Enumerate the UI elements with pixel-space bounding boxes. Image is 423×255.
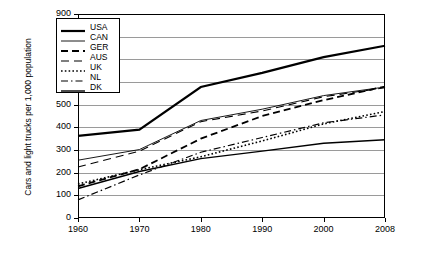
series-line-ger — [78, 87, 385, 187]
y-tick-label: 400 — [37, 122, 71, 131]
legend-item-uk[interactable]: UK — [60, 62, 116, 72]
x-tick-mark — [78, 218, 79, 222]
series-line-nl — [78, 115, 385, 200]
series-line-can — [78, 87, 385, 160]
legend-item-aus[interactable]: AUS — [60, 52, 116, 62]
legend-swatch-icon — [60, 22, 86, 32]
legend: USACANGERAUSUKNLDK — [56, 18, 120, 93]
legend-label: UK — [90, 62, 102, 72]
legend-item-nl[interactable]: NL — [60, 72, 116, 82]
legend-swatch-icon — [60, 42, 86, 52]
legend-label: USA — [90, 22, 107, 32]
x-tick-label: 2008 — [365, 224, 405, 234]
legend-swatch-icon — [60, 52, 86, 62]
legend-item-usa[interactable]: USA — [60, 22, 116, 32]
series-line-usa — [78, 46, 385, 136]
legend-label: NL — [90, 72, 101, 82]
x-tick-mark — [324, 218, 325, 222]
x-tick-mark — [262, 218, 263, 222]
x-tick-label: 1960 — [58, 224, 98, 234]
series-lines — [78, 14, 385, 218]
y-tick-label: 100 — [37, 190, 71, 199]
legend-label: GER — [90, 42, 108, 52]
legend-label: DK — [90, 82, 102, 92]
x-tick-label: 1990 — [242, 224, 282, 234]
y-tick-label: 200 — [37, 168, 71, 177]
x-tick-label: 1970 — [119, 224, 159, 234]
y-tick-label: 500 — [37, 100, 71, 109]
x-tick-label: 1980 — [181, 224, 221, 234]
x-tick-label: 2000 — [304, 224, 344, 234]
legend-label: AUS — [90, 52, 107, 62]
x-tick-mark — [385, 218, 386, 222]
legend-item-ger[interactable]: GER — [60, 42, 116, 52]
y-tick-label: 900 — [37, 9, 71, 18]
plot-area — [78, 14, 385, 218]
legend-swatch-icon — [60, 62, 86, 72]
y-tick-label: 0 — [37, 213, 71, 222]
line-chart: Cars and light trucks per 1,000 populati… — [0, 0, 423, 255]
legend-swatch-icon — [60, 82, 86, 92]
legend-item-dk[interactable]: DK — [60, 82, 116, 92]
x-tick-mark — [201, 218, 202, 222]
x-tick-mark — [139, 218, 140, 222]
legend-swatch-icon — [60, 72, 86, 82]
y-axis-title: Cars and light trucks per 1,000 populati… — [23, 12, 33, 222]
legend-label: CAN — [90, 32, 108, 42]
legend-swatch-icon — [60, 32, 86, 42]
legend-item-can[interactable]: CAN — [60, 32, 116, 42]
y-tick-label: 300 — [37, 145, 71, 154]
